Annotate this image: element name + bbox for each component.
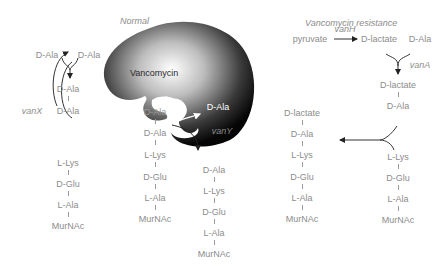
product-l-lys: L-Lys xyxy=(291,150,313,160)
bound-d-ala-1: D-Ala xyxy=(144,107,167,117)
pyruvate-label: pyruvate xyxy=(293,34,328,44)
vany-label: vanY xyxy=(212,126,233,136)
vanh-label: vanH xyxy=(334,24,355,34)
cleaved-l-ala: L-Ala xyxy=(203,228,224,238)
right-l-lys: L-Lys xyxy=(387,152,409,162)
stem-left-murnac: MurNAc xyxy=(52,221,85,231)
vanx-label: vanX xyxy=(22,106,43,116)
bound-murnac: MurNAc xyxy=(139,214,172,224)
vana-label: vanA xyxy=(410,60,431,70)
product-l-ala: L-Ala xyxy=(291,193,312,203)
depsi-d-ala: D-Ala xyxy=(387,101,410,111)
d-ala-left: D-Ala xyxy=(36,50,59,60)
right-l-ala: L-Ala xyxy=(387,194,408,204)
right-d-glu: D-Glu xyxy=(386,173,410,183)
depsi-d-lactate: D-lactate xyxy=(380,80,416,90)
bound-l-ala: L-Ala xyxy=(144,193,165,203)
bound-l-lys: L-Lys xyxy=(144,150,166,160)
product-d-glu: D-Glu xyxy=(290,172,314,182)
cleaved-d-ala: D-Ala xyxy=(203,165,226,175)
bound-d-ala-2: D-Ala xyxy=(144,128,167,138)
product-murnac: MurNAc xyxy=(286,214,319,224)
product-d-lactate: D-lactate xyxy=(284,108,320,118)
product-d-ala: D-Ala xyxy=(291,129,314,139)
d-lactate-label: D-lactate xyxy=(361,34,397,44)
right-murnac: MurNAc xyxy=(382,215,415,225)
stem-left-d-glu: D-Glu xyxy=(56,179,80,189)
vancomycin-label: Vancomycin xyxy=(130,68,178,78)
bound-d-glu: D-Glu xyxy=(143,172,167,182)
stem-left-l-ala: L-Ala xyxy=(57,200,78,210)
cleaved-l-lys: L-Lys xyxy=(203,186,225,196)
dipeptide-d-ala-1: D-Ala xyxy=(57,84,80,94)
dipeptide-d-ala-2: D-Ala xyxy=(57,106,80,116)
d-ala-right: D-Ala xyxy=(78,50,101,60)
stem-left-l-lys: L-Lys xyxy=(57,158,79,168)
heading-normal: Normal xyxy=(120,16,149,26)
released-d-ala: D-Ala xyxy=(207,102,230,112)
cleaved-murnac: MurNAc xyxy=(198,249,231,259)
d-ala-input-label: D-Ala xyxy=(409,34,432,44)
cleaved-d-glu: D-Glu xyxy=(202,207,226,217)
